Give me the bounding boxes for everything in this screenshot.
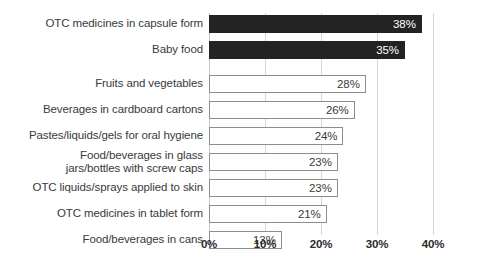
bar-value-label: 21% xyxy=(298,208,326,220)
x-tick-label: 0% xyxy=(201,238,217,250)
x-tick-label: 30% xyxy=(366,238,388,250)
bar-row: Beverages in cardboard cartons26% xyxy=(0,99,482,121)
bar-track: 26% xyxy=(209,101,482,119)
bar-row: OTC liquids/sprays applied to skin23% xyxy=(0,177,482,199)
bar-row: Baby food35% xyxy=(0,39,482,61)
bar-value-label: 23% xyxy=(309,156,337,168)
bar-value-label: 24% xyxy=(315,130,343,142)
bar-row: Fruits and vegetables28% xyxy=(0,73,482,95)
bar-track: 23% xyxy=(209,179,482,197)
bar[interactable]: 24% xyxy=(209,127,343,145)
bar-rows: OTC medicines in capsule form38%Baby foo… xyxy=(0,13,482,255)
x-tick-label: 40% xyxy=(422,238,444,250)
bar[interactable]: 23% xyxy=(209,179,338,197)
bar-row: OTC medicines in tablet form21% xyxy=(0,203,482,225)
category-label: Food/beverages in glassjars/bottles with… xyxy=(6,151,203,173)
x-tick-label: 10% xyxy=(254,238,276,250)
category-label: Baby food xyxy=(6,39,203,61)
bar-value-label: 23% xyxy=(309,182,337,194)
x-axis: 0%10%20%30%40% xyxy=(0,238,482,256)
category-label-line: OTC medicines in tablet form xyxy=(57,207,203,221)
bar-track: 23% xyxy=(209,153,482,171)
category-label-line: Pastes/liquids/gels for oral hygiene xyxy=(29,129,203,143)
bar-value-label: 28% xyxy=(337,78,365,90)
category-label-line: jars/bottles with screw caps xyxy=(66,162,203,176)
bar-row: OTC medicines in capsule form38% xyxy=(0,13,482,35)
category-label-line: Food/beverages in glass xyxy=(80,149,203,163)
category-label: Beverages in cardboard cartons xyxy=(6,99,203,121)
bar-row: Food/beverages in glassjars/bottles with… xyxy=(0,151,482,173)
bar[interactable]: 26% xyxy=(209,101,355,119)
bar[interactable]: 38% xyxy=(209,15,422,33)
category-label-line: Beverages in cardboard cartons xyxy=(43,103,203,117)
bar-track: 21% xyxy=(209,205,482,223)
category-label-line: OTC liquids/sprays applied to skin xyxy=(33,181,203,195)
bar-value-label: 35% xyxy=(376,44,404,56)
bar-row: Pastes/liquids/gels for oral hygiene24% xyxy=(0,125,482,147)
category-label-line: Baby food xyxy=(152,43,203,57)
bar-track: 35% xyxy=(209,41,482,59)
x-tick-label: 20% xyxy=(310,238,332,250)
bar[interactable]: 35% xyxy=(209,41,405,59)
bar-chart: OTC medicines in capsule form38%Baby foo… xyxy=(0,0,482,269)
category-label-line: Fruits and vegetables xyxy=(95,77,203,91)
bar-track: 28% xyxy=(209,75,482,93)
category-label-line: OTC medicines in capsule form xyxy=(45,17,203,31)
bar[interactable]: 28% xyxy=(209,75,366,93)
category-label: Pastes/liquids/gels for oral hygiene xyxy=(6,125,203,147)
bar-value-label: 38% xyxy=(393,18,421,30)
bar-track: 24% xyxy=(209,127,482,145)
bar-track: 38% xyxy=(209,15,482,33)
category-label: Fruits and vegetables xyxy=(6,73,203,95)
bar[interactable]: 23% xyxy=(209,153,338,171)
bar[interactable]: 21% xyxy=(209,205,327,223)
category-label: OTC medicines in tablet form xyxy=(6,203,203,225)
category-label: OTC liquids/sprays applied to skin xyxy=(6,177,203,199)
bar-value-label: 26% xyxy=(326,104,354,116)
category-label: OTC medicines in capsule form xyxy=(6,13,203,35)
